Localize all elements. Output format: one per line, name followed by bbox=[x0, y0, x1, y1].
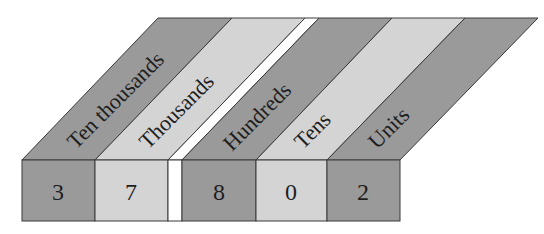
digit-thousands: 7 bbox=[125, 179, 137, 205]
place-value-diagram: Ten thousands Thousands Hundreds Tens Un… bbox=[0, 0, 544, 234]
digit-units: 2 bbox=[357, 179, 369, 205]
digit-tens: 0 bbox=[285, 179, 297, 205]
front-faces bbox=[22, 160, 400, 221]
digit-hundreds: 8 bbox=[213, 179, 225, 205]
front-face-separator bbox=[168, 160, 182, 221]
digit-ten-thousands: 3 bbox=[52, 179, 64, 205]
